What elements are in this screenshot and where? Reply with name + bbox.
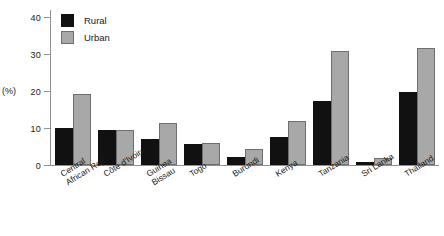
y-tick-label-40: 40 [31, 13, 41, 23]
bar-rural [55, 128, 73, 165]
bar-rural [313, 101, 331, 165]
legend-label-rural: Rural [84, 15, 107, 26]
bar-group [396, 10, 439, 165]
y-tick-label-30: 30 [31, 50, 41, 60]
bar-group [267, 10, 310, 165]
bar-group [353, 10, 396, 165]
bar-rural [399, 92, 417, 165]
legend: Rural Urban [61, 12, 110, 46]
legend-swatch-rural [61, 14, 74, 27]
y-tick-label-0: 0 [36, 161, 41, 171]
y-tick-20: 20 [44, 91, 50, 92]
y-tick-10: 10 [44, 128, 50, 129]
y-tick-label-20: 20 [31, 87, 41, 97]
legend-item-urban: Urban [61, 29, 110, 46]
bar-urban [417, 48, 435, 165]
y-tick-30: 30 [44, 54, 50, 55]
bar-group [310, 10, 353, 165]
y-tick-0: 0 [44, 165, 50, 166]
bar-group [180, 10, 223, 165]
bar-chart: (%) 010203040 CentralAfrican Rep.Côte d'… [0, 0, 444, 236]
legend-swatch-urban [61, 31, 74, 44]
y-tick-label-10: 10 [31, 124, 41, 134]
y-tick-40: 40 [44, 17, 50, 18]
bar-group [223, 10, 266, 165]
y-axis-title: (%) [2, 86, 16, 96]
legend-label-urban: Urban [84, 32, 110, 43]
legend-item-rural: Rural [61, 12, 110, 29]
bar-group [137, 10, 180, 165]
bar-urban [202, 143, 220, 165]
bar-rural [270, 137, 288, 165]
bar-urban [331, 51, 349, 165]
